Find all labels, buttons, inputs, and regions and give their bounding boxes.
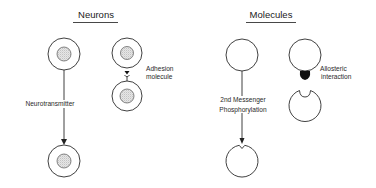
adhesion-neuron-bottom bbox=[112, 81, 142, 111]
allosteric-binding-blob-icon bbox=[300, 71, 310, 80]
molecules-panel: Molecules 2nd Messenger Phosphorylation … bbox=[212, 9, 352, 177]
nucleus bbox=[121, 47, 134, 60]
postsynaptic-neuron bbox=[48, 145, 80, 177]
allosteric-molecule-top bbox=[289, 39, 321, 71]
nucleus bbox=[57, 154, 71, 168]
allosteric-label-line2: interaction bbox=[321, 73, 352, 80]
kinase-molecule bbox=[226, 39, 258, 71]
neurons-panel: Neurons Neurotransmitter Adhesion bbox=[20, 9, 174, 177]
adhesion-label-line2: molecule bbox=[146, 73, 173, 80]
neurotransmitter-label: Neurotransmitter bbox=[25, 100, 75, 107]
presynaptic-neuron bbox=[48, 38, 80, 70]
neurotransmitter-arrowhead-icon bbox=[61, 139, 67, 145]
molecules-title: Molecules bbox=[250, 9, 293, 20]
phosphorylated-molecule-notched bbox=[226, 145, 258, 177]
allosteric-molecule-bottom bbox=[289, 91, 321, 122]
diagram-canvas: Neurons Neurotransmitter Adhesion bbox=[0, 0, 376, 188]
adhesion-molecule-icon bbox=[125, 71, 130, 81]
nucleus bbox=[57, 47, 71, 61]
adhesion-neuron-top bbox=[112, 38, 142, 68]
neurons-title: Neurons bbox=[78, 9, 114, 20]
adhesion-label-line1: Adhesion bbox=[146, 65, 174, 72]
allosteric-label-line1: Allosteric bbox=[320, 65, 347, 72]
second-messenger-label: 2nd Messenger bbox=[220, 96, 266, 104]
messenger-arrowhead-icon bbox=[240, 138, 245, 144]
nucleus bbox=[120, 89, 134, 103]
phosphorylation-label: Phosphorylation bbox=[219, 106, 267, 114]
